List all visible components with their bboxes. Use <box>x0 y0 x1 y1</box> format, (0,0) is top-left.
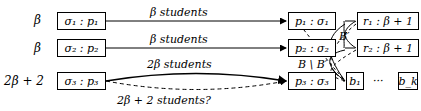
edge-label-row3: 2β students <box>147 58 212 71</box>
edge-row3-dashed <box>106 81 286 90</box>
edge-label-row2: β students <box>150 33 208 46</box>
edge-label-row1: β students <box>150 6 208 19</box>
ellipsis: ··· <box>373 75 384 88</box>
weight-row3: 2β + 2 <box>4 74 44 88</box>
source-node-3: σ₃ : p₃ <box>57 72 106 90</box>
target-node-2: p₂ : σ₂ <box>288 39 336 57</box>
bk-node: b_k <box>398 72 418 90</box>
source-node-1: σ₁ : p₁ <box>57 12 106 30</box>
edge-label-row3-dashed: 2β + 2 students? <box>117 94 211 107</box>
source-node-2: σ₂ : p₂ <box>57 39 106 57</box>
edge-label-b-prime: B′ <box>339 30 350 43</box>
r2-node: r₂ : β + 1 <box>357 39 419 57</box>
weight-row2: β <box>34 41 41 55</box>
edge-label-b-minus: B \ B′ <box>298 58 327 71</box>
r1-node: r₁ : β + 1 <box>357 12 419 30</box>
b1-node: b₁ <box>346 72 364 90</box>
edge-row3-solid <box>106 74 286 82</box>
target-node-1: p₁ : σ₁ <box>288 12 336 30</box>
weight-row1: β <box>34 13 41 27</box>
target-node-3: p₃ : σ₃ <box>288 72 336 90</box>
